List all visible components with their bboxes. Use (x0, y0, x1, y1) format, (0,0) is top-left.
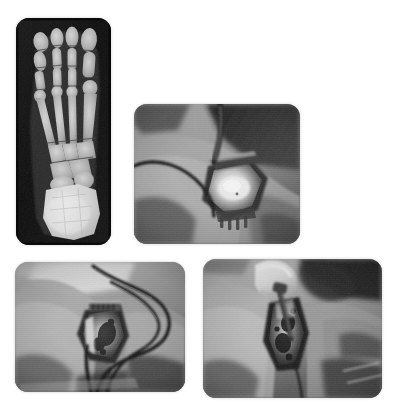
panel-intraoperative-photo-2: Intraoperative photograph showing the su… (15, 262, 185, 392)
intraoperative-photo-2-image (15, 262, 185, 392)
panel-intraoperative-photo-1: Intraoperative photograph of an open sur… (134, 104, 300, 244)
foot-radiograph-image (16, 18, 111, 245)
intraoperative-photo-1-image (134, 104, 300, 244)
panel-intraoperative-photo-3: Intraoperative photograph of a gloved ha… (203, 259, 382, 398)
intraoperative-photo-3-image (203, 259, 382, 398)
figure-canvas: Dorsoplantar (AP) radiograph of a foot s… (0, 0, 395, 415)
panel-xray-foot-radiograph: Dorsoplantar (AP) radiograph of a foot s… (16, 18, 111, 245)
